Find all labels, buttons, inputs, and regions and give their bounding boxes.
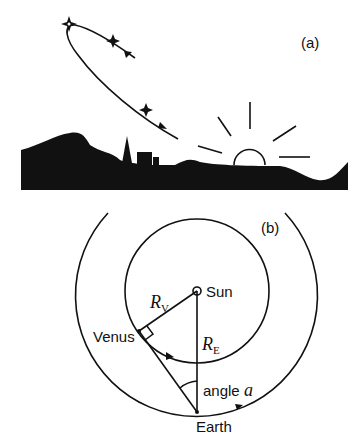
sightline (139, 331, 197, 412)
venus-label: Venus (93, 328, 135, 345)
panel-a-label: (a) (301, 34, 319, 51)
earth-label: Earth (196, 418, 232, 435)
diagram-canvas: (a) (b) (0, 0, 364, 445)
sun-rays (198, 102, 310, 157)
venus-apparent-path (67, 25, 178, 139)
panel-b-label: (b) (261, 219, 279, 236)
re-label: RE (201, 334, 220, 356)
right-angle-marker (145, 326, 153, 340)
angle-arc (180, 381, 197, 388)
earth-point (195, 410, 199, 414)
building (153, 157, 159, 165)
rv-label: RV (149, 292, 169, 314)
sun-label: Sun (206, 283, 233, 300)
building (137, 152, 152, 165)
landscape-silhouette (21, 133, 348, 190)
panel-a: (a) (21, 16, 348, 190)
star-icon (61, 16, 153, 117)
angle-label: angle a (203, 380, 253, 400)
arrow-icon (158, 122, 167, 129)
venus-point (137, 329, 141, 333)
rising-sun (234, 150, 265, 165)
panel-b: (b) Sun Venus Earth RV RE angle a (75, 213, 317, 435)
church-spire (122, 136, 132, 163)
